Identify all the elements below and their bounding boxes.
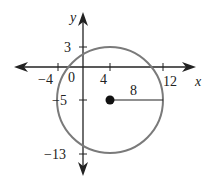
- coordinate-plane: y x 3 −5 −13 −4 0 4 12 8: [0, 0, 206, 177]
- center-point: [106, 96, 115, 105]
- x-tick-label-4: 4: [100, 72, 107, 87]
- y-axis-label: y: [68, 10, 77, 25]
- x-axis-label: x: [194, 74, 202, 89]
- radius-label: 8: [130, 83, 137, 98]
- x-tick-label-neg4: −4: [38, 72, 53, 87]
- x-tick-label-12: 12: [163, 74, 177, 89]
- y-tick-label-neg5: −5: [52, 93, 67, 108]
- y-tick-label-neg13: −13: [44, 147, 66, 162]
- y-tick-label-3: 3: [64, 40, 71, 55]
- origin-label: 0: [68, 70, 75, 85]
